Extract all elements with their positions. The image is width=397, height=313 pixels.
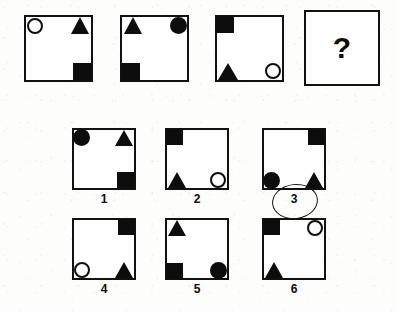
triangle-filled-icon bbox=[115, 262, 133, 278]
triangle-filled-icon bbox=[265, 262, 283, 278]
prompt-panel-question: ? bbox=[304, 10, 380, 86]
square-filled-icon bbox=[216, 16, 234, 33]
prompt-panel-2 bbox=[120, 15, 189, 82]
prompt-panel-3 bbox=[215, 15, 284, 82]
triangle-filled-icon bbox=[168, 220, 186, 236]
triangle-filled-icon bbox=[218, 63, 238, 80]
answer-option-1[interactable]: 1 bbox=[72, 128, 136, 190]
circle-open-icon bbox=[74, 262, 90, 278]
triangle-filled-icon bbox=[168, 172, 186, 188]
square-filled-icon bbox=[118, 219, 135, 235]
answer-option-5-label: 5 bbox=[165, 282, 229, 296]
triangle-filled-icon bbox=[71, 17, 89, 34]
square-filled-icon bbox=[122, 63, 140, 80]
circle-filled-icon bbox=[210, 262, 227, 279]
answer-option-2-label: 2 bbox=[165, 192, 229, 206]
triangle-filled-icon bbox=[115, 130, 133, 146]
circle-filled-icon bbox=[170, 17, 187, 34]
square-filled-icon bbox=[166, 129, 183, 145]
answer-option-6[interactable]: 6 bbox=[262, 218, 326, 280]
square-filled-icon bbox=[117, 172, 134, 188]
answer-option-3[interactable]: 3 bbox=[262, 128, 326, 190]
answer-option-2[interactable]: 2 bbox=[165, 128, 229, 190]
answer-option-1-label: 1 bbox=[72, 192, 136, 206]
circle-open-icon bbox=[307, 220, 323, 236]
square-filled-icon bbox=[308, 129, 325, 145]
circle-open-icon bbox=[27, 18, 43, 34]
circle-filled-icon bbox=[263, 172, 280, 189]
answer-option-5[interactable]: 5 bbox=[165, 218, 229, 280]
circle-filled-icon bbox=[73, 129, 90, 146]
answer-option-4-label: 4 bbox=[72, 282, 136, 296]
square-filled-icon bbox=[73, 63, 91, 80]
prompt-panel-1 bbox=[24, 15, 93, 82]
question-mark-label: ? bbox=[304, 10, 380, 86]
circle-open-icon bbox=[210, 172, 226, 188]
answer-option-6-label: 6 bbox=[262, 282, 326, 296]
answer-option-4[interactable]: 4 bbox=[72, 218, 136, 280]
square-filled-icon bbox=[166, 263, 183, 279]
square-filled-icon bbox=[263, 219, 280, 235]
visual-analogy-puzzle: ? 1 2 3 4 5 bbox=[0, 0, 397, 313]
circle-open-icon bbox=[265, 63, 281, 79]
triangle-filled-icon bbox=[124, 17, 142, 34]
